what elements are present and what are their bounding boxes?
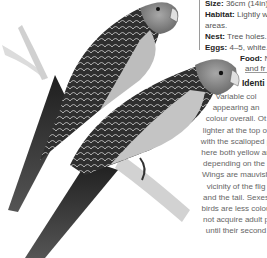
fact-habitat-cont: areas. (205, 21, 227, 31)
fact-food-cont: and fr (245, 64, 265, 74)
fact-box-divider (199, 0, 200, 50)
identification-text: Variable col appearing an colour overall… (145, 91, 267, 237)
branch-back (2, 25, 48, 80)
fact-size: Size: 36cm (14in) (205, 0, 267, 9)
identification-heading: Identi (242, 78, 265, 88)
fact-nest: Nest: Tree holes. (205, 32, 267, 42)
fact-eggs: Eggs: 4–5, white. (205, 43, 267, 53)
fact-food: Food: N (240, 54, 267, 64)
fact-habitat: Habitat: Lightly w (205, 10, 267, 20)
